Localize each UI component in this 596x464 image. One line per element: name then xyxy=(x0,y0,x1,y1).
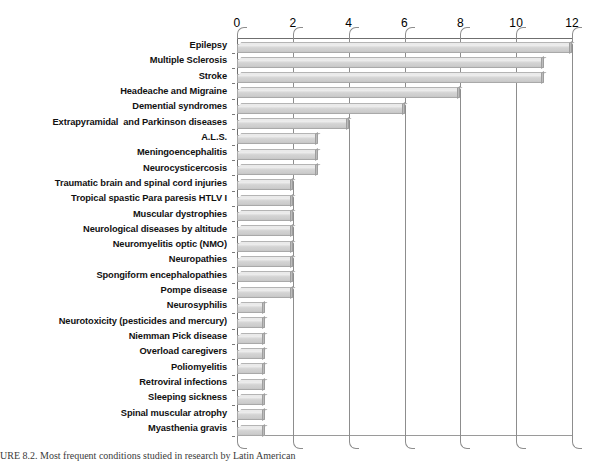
bar-top-face xyxy=(239,256,296,259)
category-label: Meningoencephalitis xyxy=(137,147,227,158)
bar-end-cap xyxy=(290,179,293,192)
category-label: Poliomyelitis xyxy=(171,362,227,373)
category-label: Neurotoxicity (pesticides and mercury) xyxy=(59,316,227,327)
bar-top-face xyxy=(239,103,408,106)
category-label: Neuropathies xyxy=(169,254,227,265)
bar-end-cap xyxy=(262,378,265,391)
bar xyxy=(237,381,265,390)
bar-end-cap xyxy=(541,56,544,69)
bar xyxy=(237,411,265,420)
category-label: Stroke xyxy=(199,71,227,82)
bar-end-cap xyxy=(541,71,544,84)
category-label: Retroviral infections xyxy=(139,377,227,388)
category-axis-tick xyxy=(232,175,235,176)
bar xyxy=(237,289,293,298)
category-axis-tick xyxy=(232,68,235,69)
bar-end-cap xyxy=(262,362,265,375)
bar-top-face xyxy=(239,164,321,167)
category-label: Headeache and Migraine xyxy=(120,86,227,97)
bar xyxy=(237,44,572,53)
gridline-foot-icon xyxy=(293,436,303,449)
category-axis-tick xyxy=(232,160,235,161)
bar-top-face xyxy=(239,149,321,152)
bar-top-face xyxy=(239,287,296,290)
bar-top-face xyxy=(239,241,296,244)
bar-end-cap xyxy=(346,117,349,130)
category-axis-tick xyxy=(232,221,235,222)
category-axis-labels: EpilepsyMultiple SclerosisStrokeHeadeach… xyxy=(0,38,232,436)
bar-end-cap xyxy=(402,102,405,115)
category-axis-tick xyxy=(232,237,235,238)
category-label: Neuromyelitis optic (NMO) xyxy=(113,239,227,250)
bar xyxy=(237,181,293,190)
bar xyxy=(237,89,460,98)
category-axis-tick xyxy=(232,405,235,406)
bar-top-face xyxy=(239,42,575,45)
bar-end-cap xyxy=(315,133,318,146)
bar xyxy=(237,427,265,436)
category-label: Pompe disease xyxy=(161,285,227,296)
gridline xyxy=(460,38,461,436)
bar xyxy=(237,120,349,129)
category-axis-tick xyxy=(232,329,235,330)
bar xyxy=(237,166,318,175)
figure-container: EpilepsyMultiple SclerosisStrokeHeadeach… xyxy=(0,0,596,464)
bar-end-cap xyxy=(262,301,265,314)
bar-end-cap xyxy=(262,332,265,345)
category-axis-tick xyxy=(232,421,235,422)
category-label: Epilepsy xyxy=(190,40,227,51)
bar-end-cap xyxy=(262,408,265,421)
category-label: Neurosyphilis xyxy=(167,300,227,311)
bar-top-face xyxy=(239,57,547,60)
category-axis-tick xyxy=(232,83,235,84)
bar-end-cap xyxy=(262,424,265,437)
gridline xyxy=(516,38,517,436)
category-axis-tick xyxy=(232,375,235,376)
bar-end-cap xyxy=(457,87,460,100)
x-tick-label-6: 6 xyxy=(401,16,408,30)
plot-area: 024681012 xyxy=(237,38,572,436)
bar-end-cap xyxy=(315,163,318,176)
category-label: Multiple Sclerosis xyxy=(150,55,227,66)
category-label: Sleeping sickness xyxy=(148,392,227,403)
bar-top-face xyxy=(239,87,463,90)
bar xyxy=(237,227,293,236)
category-axis-tick xyxy=(232,252,235,253)
bar-end-cap xyxy=(290,270,293,283)
category-axis-tick xyxy=(232,390,235,391)
category-label: Demential syndromes xyxy=(132,101,227,112)
bar-end-cap xyxy=(262,347,265,360)
bar-end-cap xyxy=(290,224,293,237)
bar xyxy=(237,258,293,267)
bar xyxy=(237,197,293,206)
category-label: Extrapyramidal and Parkinson diseases xyxy=(53,117,227,128)
category-label: Tropical spastic Para paresis HTLV I xyxy=(71,193,227,204)
bar-end-cap xyxy=(262,393,265,406)
category-label: Niemman Pick disease xyxy=(129,331,227,342)
x-tick-label-2: 2 xyxy=(289,16,296,30)
category-axis-tick xyxy=(232,53,235,54)
gridline-foot-icon xyxy=(516,436,526,449)
category-axis-tick xyxy=(232,344,235,345)
bar-top-face xyxy=(239,210,296,213)
gridline-foot-icon xyxy=(237,436,247,449)
bar xyxy=(237,105,405,114)
category-label: Spinal muscular atrophy xyxy=(121,408,227,419)
x-tick-label-10: 10 xyxy=(509,16,523,30)
bar-top-face xyxy=(239,118,352,121)
bar xyxy=(237,319,265,328)
bar xyxy=(237,135,318,144)
category-axis-tick xyxy=(232,436,235,437)
category-label: Overload caregivers xyxy=(139,346,227,357)
category-axis-tick xyxy=(232,359,235,360)
x-tick-label-8: 8 xyxy=(457,16,464,30)
gridline-foot-icon xyxy=(460,436,470,449)
bar-top-face xyxy=(239,195,296,198)
bar xyxy=(237,74,544,83)
gridline-foot-icon xyxy=(405,436,415,449)
bar-end-cap xyxy=(290,240,293,253)
bar xyxy=(237,151,318,160)
bar-end-cap xyxy=(290,194,293,207)
bar-top-face xyxy=(239,225,296,228)
category-axis-tick xyxy=(232,206,235,207)
